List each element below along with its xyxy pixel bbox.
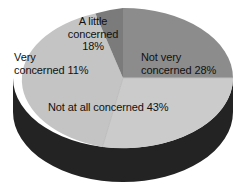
pie-slices-group [22,8,233,148]
pie-chart-graphic [0,0,247,191]
pie-chart: A little concerned 18% Very concerned 11… [0,0,247,191]
pie-slice-a-little-concerned[interactable] [123,8,233,78]
